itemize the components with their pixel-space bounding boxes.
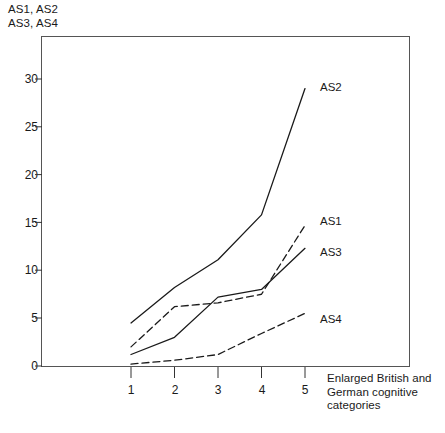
series-line-as4 (131, 313, 305, 364)
series-lines (131, 89, 305, 365)
x-axis-label-line-3: categories (327, 399, 445, 413)
series-line-as1 (131, 225, 305, 347)
x-axis-label-line-2: German cognitive (327, 386, 445, 400)
series-line-as2 (131, 89, 305, 323)
x-axis-label-line-1: Enlarged British and (327, 372, 445, 386)
plot-frame (42, 37, 410, 367)
y-axis-ticks (35, 79, 42, 366)
x-axis-ticks (131, 367, 305, 378)
line-chart-figure: AS1, AS2 AS3, AS4 30 25 20 15 10 5 0 1 2… (0, 0, 445, 433)
plot-area (0, 0, 445, 433)
x-axis-label: Enlarged British and German cognitive ca… (327, 372, 445, 413)
